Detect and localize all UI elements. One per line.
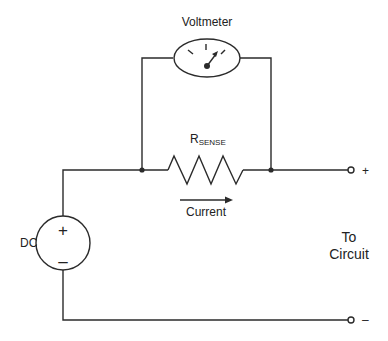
terminal-minus-icon <box>348 317 354 323</box>
current-arrow-icon <box>180 197 233 204</box>
top-left-wire <box>63 170 168 216</box>
voltmeter-left-wire <box>142 58 173 170</box>
voltmeter-label: Voltmeter <box>182 15 233 29</box>
junction-left-icon <box>139 167 144 172</box>
to-circuit-line1: To <box>342 229 357 245</box>
voltmeter-icon <box>174 39 240 77</box>
terminal-plus-label: + <box>362 164 369 178</box>
source-minus-sign: – <box>58 252 68 271</box>
dc-label: DC <box>20 236 38 250</box>
source-plus-sign: + <box>58 221 68 240</box>
bottom-wire <box>63 270 348 320</box>
rsense-label: RSENSE <box>190 132 226 147</box>
junction-right-icon <box>268 167 273 172</box>
terminal-plus-icon <box>348 167 354 173</box>
terminal-minus-label: – <box>362 313 369 327</box>
to-circuit-line2: Circuit <box>329 246 369 262</box>
resistor-icon <box>168 156 243 184</box>
current-label: Current <box>186 205 227 219</box>
circuit-diagram: Voltmeter RSENSE Current + – DC + – To C <box>0 0 388 341</box>
dc-source-icon: + – <box>36 216 90 271</box>
voltmeter-right-wire <box>240 58 271 170</box>
